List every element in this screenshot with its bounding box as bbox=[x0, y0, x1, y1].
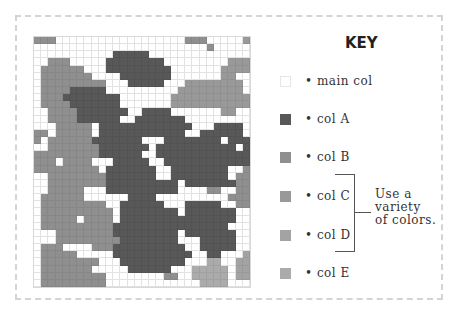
grid-cell bbox=[214, 151, 221, 158]
pixel-grid bbox=[33, 36, 251, 288]
grid-cell bbox=[63, 180, 70, 187]
grid-cell bbox=[92, 94, 99, 101]
grid-cell bbox=[120, 66, 127, 73]
grid-cell bbox=[156, 237, 163, 244]
grid-cell bbox=[113, 244, 120, 251]
grid-cell bbox=[192, 66, 199, 73]
grid-cell bbox=[92, 237, 99, 244]
grid-cell bbox=[120, 51, 127, 58]
grid-cell bbox=[178, 201, 185, 208]
grid-cell bbox=[56, 158, 63, 165]
grid-cell bbox=[236, 80, 243, 87]
grid-cell bbox=[106, 230, 113, 237]
grid-cell bbox=[236, 144, 243, 151]
swatch-col-d bbox=[280, 230, 291, 241]
grid-cell bbox=[77, 187, 84, 194]
grid-cell bbox=[113, 273, 120, 280]
grid-cell bbox=[149, 216, 156, 223]
grid-cell bbox=[48, 73, 55, 80]
grid-cell bbox=[192, 80, 199, 87]
grid-cell bbox=[63, 230, 70, 237]
grid-cell bbox=[156, 101, 163, 108]
grid-cell bbox=[56, 187, 63, 194]
grid-cell bbox=[128, 51, 135, 58]
grid-cell bbox=[77, 73, 84, 80]
grid-cell bbox=[77, 144, 84, 151]
grid-cell bbox=[192, 123, 199, 130]
grid-cell bbox=[48, 123, 55, 130]
grid-cell bbox=[120, 87, 127, 94]
grid-cell bbox=[171, 187, 178, 194]
grid-cell bbox=[41, 44, 48, 51]
grid-cell bbox=[192, 94, 199, 101]
grid-cell bbox=[128, 266, 135, 273]
grid-cell bbox=[185, 37, 192, 44]
grid-cell bbox=[128, 194, 135, 201]
grid-cell bbox=[56, 251, 63, 258]
grid-cell bbox=[92, 44, 99, 51]
grid-cell bbox=[207, 51, 214, 58]
grid-cell bbox=[171, 87, 178, 94]
grid-cell bbox=[48, 144, 55, 151]
grid-cell bbox=[77, 280, 84, 287]
grid-cell bbox=[207, 173, 214, 180]
grid-cell bbox=[221, 66, 228, 73]
grid-cell bbox=[156, 108, 163, 115]
grid-cell bbox=[113, 258, 120, 265]
grid-cell bbox=[142, 87, 149, 94]
grid-cell bbox=[200, 137, 207, 144]
grid-cell bbox=[92, 173, 99, 180]
grid-cell bbox=[34, 151, 41, 158]
grid-cell bbox=[113, 194, 120, 201]
grid-cell bbox=[128, 87, 135, 94]
grid-cell bbox=[56, 87, 63, 94]
grid-cell bbox=[185, 166, 192, 173]
grid-cell bbox=[48, 94, 55, 101]
grid-cell bbox=[92, 194, 99, 201]
grid-cell bbox=[84, 144, 91, 151]
grid-cell bbox=[106, 130, 113, 137]
grid-cell bbox=[185, 251, 192, 258]
grid-cell bbox=[41, 66, 48, 73]
grid-cell bbox=[63, 44, 70, 51]
grid-cell bbox=[214, 158, 221, 165]
grid-cell bbox=[128, 258, 135, 265]
grid-cell bbox=[142, 173, 149, 180]
grid-cell bbox=[192, 280, 199, 287]
grid-cell bbox=[70, 258, 77, 265]
grid-cell bbox=[48, 37, 55, 44]
grid-cell bbox=[84, 80, 91, 87]
grid-cell bbox=[243, 258, 250, 265]
grid-cell bbox=[113, 130, 120, 137]
grid-cell bbox=[142, 187, 149, 194]
grid-cell bbox=[207, 237, 214, 244]
grid-cell bbox=[178, 137, 185, 144]
grid-cell bbox=[171, 66, 178, 73]
grid-cell bbox=[200, 58, 207, 65]
grid-cell bbox=[200, 144, 207, 151]
grid-cell bbox=[178, 237, 185, 244]
grid-cell bbox=[113, 44, 120, 51]
grid-cell bbox=[171, 208, 178, 215]
grid-cell bbox=[84, 116, 91, 123]
grid-cell bbox=[92, 37, 99, 44]
grid-cell bbox=[164, 166, 171, 173]
grid-cell bbox=[142, 73, 149, 80]
grid-cell bbox=[149, 187, 156, 194]
grid-cell bbox=[164, 280, 171, 287]
grid-cell bbox=[149, 158, 156, 165]
grid-cell bbox=[171, 144, 178, 151]
grid-cell bbox=[106, 223, 113, 230]
grid-cell bbox=[106, 66, 113, 73]
grid-cell bbox=[41, 273, 48, 280]
grid-cell bbox=[77, 266, 84, 273]
grid-cell bbox=[164, 108, 171, 115]
grid-cell bbox=[228, 37, 235, 44]
key-item-col-a: • col A bbox=[280, 111, 350, 127]
grid-cell bbox=[178, 173, 185, 180]
grid-cell bbox=[228, 80, 235, 87]
grid-cell bbox=[70, 94, 77, 101]
grid-cell bbox=[84, 280, 91, 287]
grid-cell bbox=[106, 201, 113, 208]
grid-cell bbox=[178, 130, 185, 137]
